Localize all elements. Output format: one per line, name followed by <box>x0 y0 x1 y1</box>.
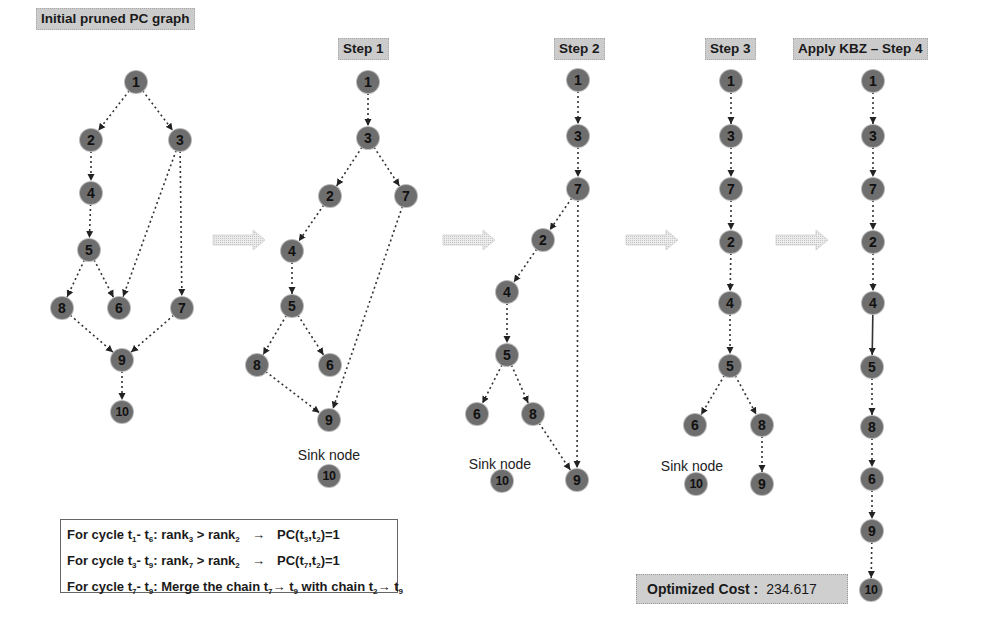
node-step4-9: 9 <box>861 520 883 542</box>
node-initial-9: 9 <box>111 349 133 371</box>
edge-step4-4-5 <box>872 314 873 355</box>
edge-step2-5-8 <box>511 365 528 403</box>
edge-step1-5-8 <box>263 315 286 354</box>
node-step4-2: 2 <box>862 231 884 253</box>
sink-node-label: Sink node <box>661 458 723 474</box>
node-step4-1: 1 <box>862 70 884 92</box>
node-step4-10: 10 <box>860 579 882 601</box>
edge-initial-7-9 <box>131 315 174 352</box>
panel-title-step2: Step 2 <box>554 38 605 60</box>
optimized-cost-box: Optimized Cost :234.617 <box>636 574 848 604</box>
node-step3-6: 6 <box>684 414 706 436</box>
node-step2-2: 2 <box>532 229 554 251</box>
edge-initial-3-7 <box>180 151 182 296</box>
sink-node-label: Sink node <box>298 447 360 463</box>
node-initial-2: 2 <box>80 129 102 151</box>
node-step3-4: 4 <box>719 292 741 314</box>
edge-step1-5-6 <box>298 315 324 355</box>
node-initial-4: 4 <box>80 182 102 204</box>
sink-node-step2: 10 <box>491 470 513 492</box>
optimized-cost-label: Optimized Cost : <box>647 581 758 597</box>
node-step4-7: 7 <box>862 178 884 200</box>
edge-initial-8-9 <box>70 315 113 352</box>
legend-line-3: For cycle t7- t9: Merge the chain t7→ t9… <box>67 576 397 602</box>
node-step4-6: 6 <box>861 468 883 490</box>
node-step3-9: 9 <box>751 473 773 495</box>
node-step1-2: 2 <box>319 185 341 207</box>
right-arrow-icon: → <box>243 524 273 545</box>
panel-title-initial: Initial pruned PC graph <box>36 8 195 30</box>
edge-step1-3-2 <box>337 147 362 186</box>
legend-line-2: For cycle t3- t9: rank7 > rank2 → PC(t7,… <box>67 550 397 576</box>
node-step2-5: 5 <box>496 344 518 366</box>
node-step1-8: 8 <box>246 354 268 376</box>
step-arrow-icon <box>626 230 678 250</box>
sink-node-step3: 10 <box>685 473 707 495</box>
right-arrow-icon: → <box>243 550 273 571</box>
edge-initial-5-6 <box>94 260 113 298</box>
edge-step1-7-9 <box>333 206 403 408</box>
node-step2-9: 9 <box>566 469 588 491</box>
node-step2-7: 7 <box>567 178 589 200</box>
node-step2-3: 3 <box>567 125 589 147</box>
legend-line-1: For cycle t1- t6: rank3 > rank2 → PC(t3,… <box>67 524 397 550</box>
edge-step3-5-8 <box>735 376 756 415</box>
panel-title-step1: Step 1 <box>338 38 389 60</box>
node-step3-2: 2 <box>720 231 742 253</box>
edge-step2-8-9 <box>539 423 570 470</box>
edges-layer <box>67 91 873 578</box>
edge-step2-7-9 <box>577 200 578 468</box>
node-initial-10: 10 <box>111 401 133 423</box>
edge-step2-5-6 <box>482 365 502 403</box>
edge-step4-9-10 <box>871 542 872 578</box>
panel-title-step4: Apply KBZ – Step 4 <box>793 38 928 60</box>
right-arrow-icon: → <box>378 579 391 594</box>
node-initial-7: 7 <box>171 297 193 319</box>
node-step3-3: 3 <box>720 125 742 147</box>
node-step2-4: 4 <box>496 281 518 303</box>
step-arrow-icon <box>776 230 828 250</box>
panel-title-step3: Step 3 <box>705 38 756 60</box>
node-step1-7: 7 <box>395 185 417 207</box>
node-step1-9: 9 <box>318 409 340 431</box>
node-initial-3: 3 <box>169 129 191 151</box>
edge-step2-7-2 <box>550 198 572 230</box>
node-step4-3: 3 <box>862 125 884 147</box>
node-step1-5: 5 <box>281 295 303 317</box>
node-step3-8: 8 <box>751 414 773 436</box>
edge-step1-2-4 <box>299 205 324 241</box>
node-initial-6: 6 <box>108 297 130 319</box>
cycle-legend-box: For cycle t1- t6: rank3 > rank2 → PC(t3,… <box>60 519 398 593</box>
node-step1-6: 6 <box>319 354 341 376</box>
node-step1-4: 4 <box>281 240 303 262</box>
node-step1-1: 1 <box>357 71 379 93</box>
node-step3-5: 5 <box>719 355 741 377</box>
edge-initial-3-6 <box>123 150 176 296</box>
right-arrow-icon: → <box>273 579 286 594</box>
edge-initial-4-5 <box>89 204 90 238</box>
edge-step3-2-4 <box>730 253 731 291</box>
node-step4-5: 5 <box>861 356 883 378</box>
node-step1-3: 3 <box>357 127 379 149</box>
node-initial-1: 1 <box>125 71 147 93</box>
edge-initial-1-3 <box>143 91 173 131</box>
step-arrow-icon <box>443 230 495 250</box>
node-step2-6: 6 <box>466 403 488 425</box>
edge-step3-5-6 <box>701 375 724 414</box>
edge-step2-2-4 <box>514 249 537 282</box>
node-step3-7: 7 <box>720 178 742 200</box>
node-step3-1: 1 <box>720 70 742 92</box>
node-step4-4: 4 <box>862 292 884 314</box>
edge-initial-1-2 <box>98 91 129 131</box>
edge-step1-8-9 <box>266 372 320 413</box>
step-arrow-icon <box>213 230 265 250</box>
sink-node-step1: 10 <box>318 465 340 487</box>
node-step4-8: 8 <box>861 416 883 438</box>
node-step2-8: 8 <box>522 403 544 425</box>
optimized-cost-value: 234.617 <box>766 581 817 597</box>
edge-step1-3-7 <box>374 147 399 186</box>
edge-initial-5-8 <box>67 260 84 297</box>
node-step2-1: 1 <box>567 69 589 91</box>
node-initial-8: 8 <box>51 297 73 319</box>
node-initial-5: 5 <box>78 239 100 261</box>
